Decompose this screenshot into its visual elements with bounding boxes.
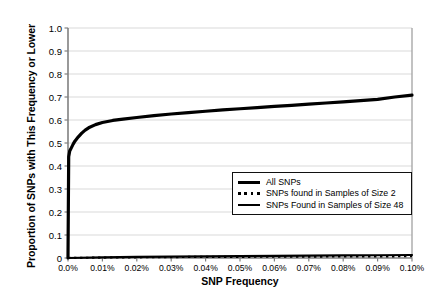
legend-label: SNPs found in Samples of Size 2 [266,188,396,199]
plot-area: 00.10.20.30.40.50.60.70.80.91.0 0.0%0.01… [68,28,412,258]
x-tick-label: 0.06% [262,263,286,273]
x-tick-label: 0.10% [400,263,424,273]
x-tick-label: 0.05% [228,263,252,273]
x-axis-title: SNP Frequency [68,275,412,287]
y-tick-label: 0.8 [32,69,62,80]
y-tick-label: 0.6 [32,115,62,126]
legend-label: SNPs Found in Samples of Size 48 [266,200,403,211]
legend-item-samples-size-2: SNPs found in Samples of Size 2 [237,188,408,199]
x-tick-label: 0.07% [297,263,321,273]
legend-label: All SNPs [266,177,301,188]
legend-key-dotted-icon [237,188,261,199]
y-tick-label: 0.2 [32,207,62,218]
y-tick-label: 0.4 [32,161,62,172]
legend-item-all-snps: All SNPs [237,177,408,188]
x-tick-label: 0.09% [365,263,389,273]
x-tick-label: 0.0% [58,263,78,273]
x-tick-label: 0.08% [331,263,355,273]
y-tick-label: 0 [32,253,62,264]
y-tick-label: 0.3 [32,184,62,195]
legend-key-solid-thin-icon [237,200,261,211]
x-tick-label: 0.02% [125,263,149,273]
y-tick-label: 0.1 [32,230,62,241]
x-tick-label: 0.03% [159,263,183,273]
y-tick-label: 0.5 [32,138,62,149]
y-tick-label: 0.7 [32,92,62,103]
chart-legend: All SNPs SNPs found in Samples of Size 2… [232,172,412,215]
chart-container: Proportion of SNPs with This Frequency o… [0,0,432,300]
legend-item-samples-size-48: SNPs Found in Samples of Size 48 [237,200,408,211]
plot-svg [68,28,412,258]
y-tick-label: 0.9 [32,46,62,57]
x-tick-label: 0.04% [193,263,217,273]
y-tick-label: 1.0 [32,23,62,34]
x-tick-label: 0.01% [90,263,114,273]
legend-key-solid-thick-icon [237,177,261,188]
